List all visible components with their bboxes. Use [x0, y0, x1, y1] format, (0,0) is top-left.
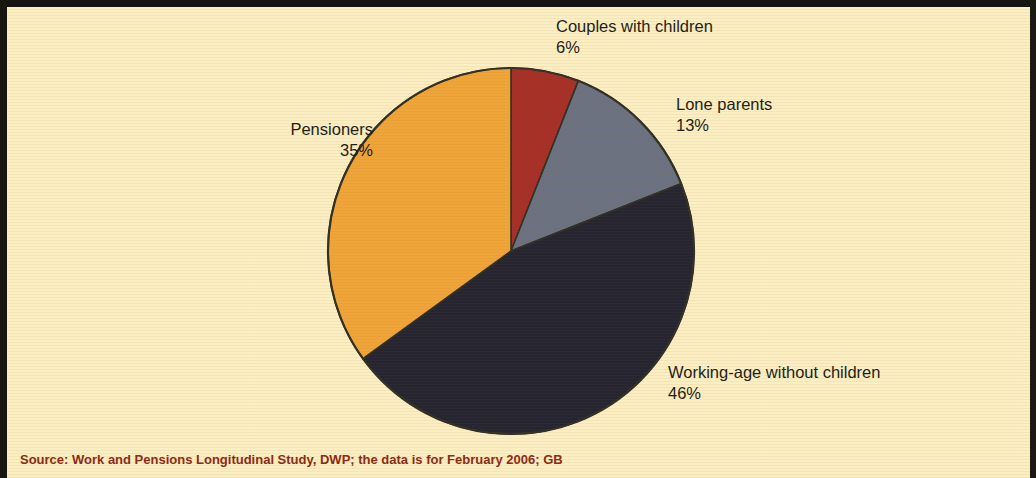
pie-chart-canvas: [0, 0, 1036, 478]
figure-border-left: [0, 0, 7, 478]
slice-label-pensioners-pct: 35%: [205, 140, 373, 161]
figure-border-top: [0, 0, 1036, 7]
figure-border-right: [1030, 0, 1036, 478]
pie-chart-figure: Couples with children 6% Lone parents 13…: [0, 0, 1036, 478]
slice-label-pensioners: Pensioners 35%: [205, 119, 373, 161]
slice-label-couples-name: Couples with children: [556, 17, 713, 35]
slice-label-working-age-without-children: Working-age without children 46%: [668, 362, 880, 404]
slice-label-lone-name: Lone parents: [676, 95, 772, 113]
slice-label-pensioners-name: Pensioners: [290, 120, 373, 138]
pie-svg: [0, 0, 1036, 478]
pie-slice-group: [328, 68, 694, 434]
slice-label-working-pct: 46%: [668, 383, 880, 404]
slice-label-couples-with-children: Couples with children 6%: [556, 16, 713, 58]
slice-label-lone-pct: 13%: [676, 115, 772, 136]
slice-label-lone-parents: Lone parents 13%: [676, 94, 772, 136]
slice-label-working-name: Working-age without children: [668, 363, 880, 381]
source-note: Source: Work and Pensions Longitudinal S…: [20, 452, 563, 467]
slice-label-couples-pct: 6%: [556, 37, 713, 58]
